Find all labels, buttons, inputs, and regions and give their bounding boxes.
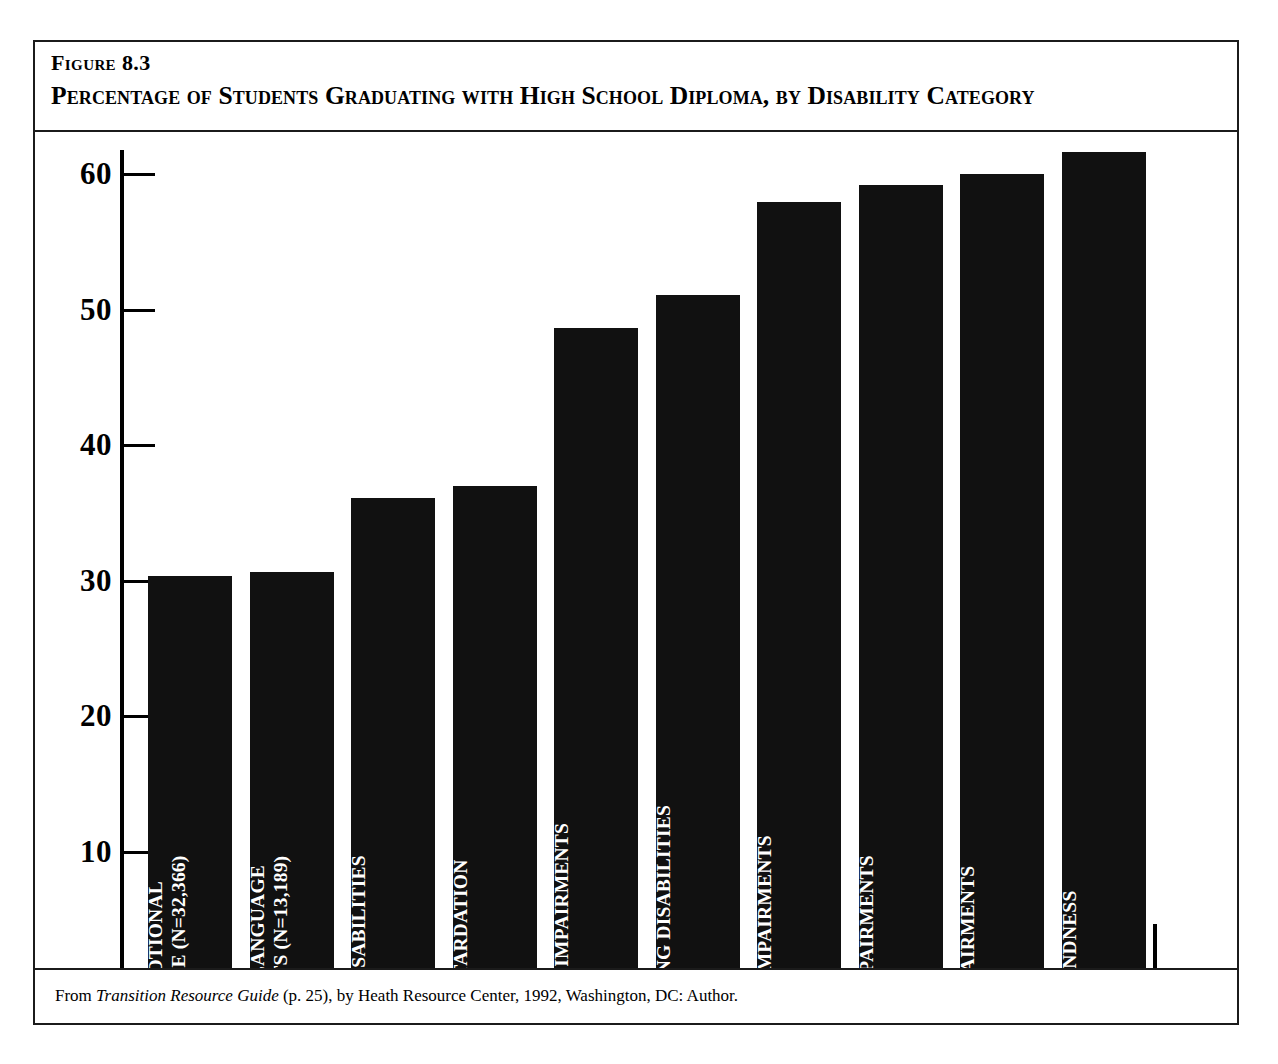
bar-label-line2: (N=153) [1081, 891, 1104, 968]
bar-label-line2: (N=126,495) [675, 805, 698, 968]
bar-label-line2: (N=3,233) [878, 855, 901, 968]
caption-suffix: (p. 25), by Heath Resource Center, 1992,… [279, 986, 738, 1005]
bar[interactable]: SERIOUS EMOTIONALDISTURBANCE (N=32,366) [148, 576, 232, 968]
bar-label: MENTAL RETARDATION(N=45,051) [453, 860, 495, 968]
bars-layer: SERIOUS EMOTIONALDISTURBANCE (N=32,366)S… [35, 132, 1237, 968]
caption-text: From Transition Resource Guide (p. 25), … [55, 986, 738, 1006]
figure-number: Figure 8.3 [51, 51, 1221, 74]
bar-label: SPEECH OR LANGUAGEIMPAIRMENTS (N=13,189) [250, 856, 292, 968]
bar-label-line1: MULTIPLE DISABILITIES [351, 855, 369, 968]
bar-label: SERIOUS EMOTIONALDISTURBANCE (N=32,366) [148, 855, 190, 968]
bar-label: VISUAL IMPAIRMENTS(N=1,482) [960, 866, 1002, 968]
bar-label: SPECIFIC LEARNING DISABILITIES(N=126,495… [656, 805, 698, 968]
figure-title: Percentage of Students Graduating with H… [51, 83, 1221, 110]
bar-label: MULTIPLE DISABILITIES(N=4,048) [351, 855, 393, 968]
bar[interactable]: MULTIPLE DISABILITIES(N=4,048) [351, 498, 435, 968]
bar-label-line1: SERIOUS EMOTIONAL [148, 881, 166, 968]
bar-label: DEAF-BLINDNESS(N=153) [1062, 891, 1104, 968]
bar-label-line2: DISTURBANCE (N=32,366) [167, 855, 190, 968]
bar-label-line1: HEARING IMPAIRMENTS [859, 855, 877, 968]
figure-frame: Figure 8.3 Percentage of Students Gradua… [33, 40, 1239, 1025]
caption-source-title: Transition Resource Guide [96, 986, 279, 1005]
bar-label: HEARING IMPAIRMENTS(N=3,233) [859, 855, 901, 968]
bar-label: OTHER HEALTH IMPAIRMENTS(N=2,937) [554, 823, 596, 968]
bar[interactable]: SPEECH OR LANGUAGEIMPAIRMENTS (N=13,189) [250, 572, 334, 968]
bar-label-line1: SPEECH OR LANGUAGE [250, 865, 268, 968]
bar[interactable]: MENTAL RETARDATION(N=45,051) [453, 486, 537, 968]
bar[interactable]: VISUAL IMPAIRMENTS(N=1,482) [960, 174, 1044, 968]
chart-plot-area: 6050403020100 SERIOUS EMOTIONALDISTURBAN… [35, 132, 1237, 968]
bar-label-line1: DEAF-BLINDNESS [1062, 891, 1080, 968]
bar[interactable]: DEAF-BLINDNESS(N=153) [1062, 152, 1146, 968]
bar[interactable]: SPECIFIC LEARNING DISABILITIES(N=126,495… [656, 295, 740, 968]
bar-label-line2: (N=4,048) [370, 855, 393, 968]
bar[interactable]: ORTHOPEDIC IMPAIRMENTS(N=2,464) [757, 202, 841, 968]
bar-label-line2: (N=1,482) [979, 866, 1002, 968]
bar-label-line2: (N=45,051) [472, 860, 495, 968]
bar-label: ORTHOPEDIC IMPAIRMENTS(N=2,464) [757, 835, 799, 968]
bar-label-line1: ORTHOPEDIC IMPAIRMENTS [757, 835, 775, 968]
bar-label-line1: SPECIFIC LEARNING DISABILITIES [656, 805, 674, 968]
bar-label-line2: (N=2,464) [776, 835, 799, 968]
bar-label-line1: OTHER HEALTH IMPAIRMENTS [554, 823, 572, 968]
bar[interactable]: OTHER HEALTH IMPAIRMENTS(N=2,937) [554, 328, 638, 968]
figure-header: Figure 8.3 Percentage of Students Gradua… [35, 42, 1237, 132]
bar-label-line2: IMPAIRMENTS (N=13,189) [269, 856, 292, 968]
bar-label-line1: MENTAL RETARDATION [453, 860, 471, 968]
bar-label-line1: VISUAL IMPAIRMENTS [960, 866, 978, 968]
bar-label-line2: (N=2,937) [573, 823, 596, 968]
bar[interactable]: HEARING IMPAIRMENTS(N=3,233) [859, 185, 943, 968]
figure-caption: From Transition Resource Guide (p. 25), … [35, 968, 1237, 1023]
caption-prefix: From [55, 986, 96, 1005]
